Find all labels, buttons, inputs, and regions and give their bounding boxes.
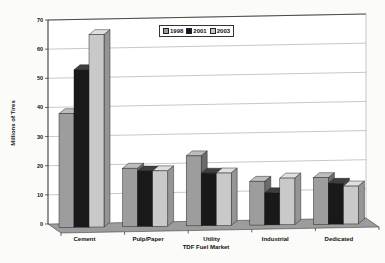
bar-front-face xyxy=(328,183,343,224)
scanned-chart-figure: Millions of Tires TDF Fuel Market 010203… xyxy=(0,0,385,263)
bar-2003-Dedicated xyxy=(343,181,364,224)
bar-front-face xyxy=(59,114,74,228)
y-tick-label: 20 xyxy=(37,163,43,169)
y-tick-label: 50 xyxy=(37,75,43,81)
bar-front-face xyxy=(138,171,153,226)
legend: 199820012003 xyxy=(159,25,234,37)
x-category-label: Pulp/Paper xyxy=(132,236,164,242)
bar-2003-Pulp/Paper xyxy=(153,166,174,226)
legend-label: 2003 xyxy=(217,27,230,35)
x-category-label: Industrial xyxy=(262,236,289,242)
bar-front-face xyxy=(216,173,231,225)
bar-front-face xyxy=(74,70,89,227)
legend-swatch xyxy=(163,28,169,34)
y-axis-ticks: 010203040506070 xyxy=(37,17,48,227)
y-tick-label: 30 xyxy=(37,134,43,140)
bar-side-face xyxy=(104,30,110,227)
bar-front-face xyxy=(201,173,216,225)
legend-item-1998: 1998 xyxy=(163,27,183,35)
bar-front-face xyxy=(280,178,295,225)
x-category-label: Dedicated xyxy=(325,236,354,242)
bar-side-face xyxy=(295,173,301,225)
legend-item-2003: 2003 xyxy=(210,27,230,35)
bar-front-face xyxy=(250,181,265,225)
legend-label: 1998 xyxy=(170,27,183,35)
bar-chart: Millions of Tires TDF Fuel Market 010203… xyxy=(0,0,385,263)
y-axis-title: Millions of Tires xyxy=(10,100,16,146)
x-category-label: Cement xyxy=(73,236,95,242)
bar-2003-Industrial xyxy=(280,173,301,225)
bar-front-face xyxy=(153,171,168,226)
bar-front-face xyxy=(186,156,201,226)
bar-2003-Utility xyxy=(216,168,237,225)
bar-front-face xyxy=(89,35,104,227)
y-tick-label: 0 xyxy=(40,221,43,227)
bar-side-face xyxy=(231,168,237,225)
bar-side-face xyxy=(168,166,174,226)
bar-side-face xyxy=(358,181,364,224)
y-tick-label: 70 xyxy=(37,17,43,23)
y-tick-label: 60 xyxy=(37,46,43,52)
legend-item-2001: 2001 xyxy=(186,27,206,35)
bar-front-face xyxy=(313,178,328,225)
bar-front-face xyxy=(343,186,358,224)
legend-swatch xyxy=(210,28,216,34)
legend-label: 2001 xyxy=(193,27,206,35)
bar-2003-Cement xyxy=(89,30,110,227)
legend-swatch xyxy=(186,28,192,34)
x-category-label: Utility xyxy=(203,236,220,242)
y-tick-label: 40 xyxy=(37,104,43,110)
bar-front-face xyxy=(265,193,280,225)
bar-front-face xyxy=(123,168,138,226)
x-axis-title: TDF Fuel Market xyxy=(183,244,230,250)
y-tick-label: 10 xyxy=(37,192,43,198)
